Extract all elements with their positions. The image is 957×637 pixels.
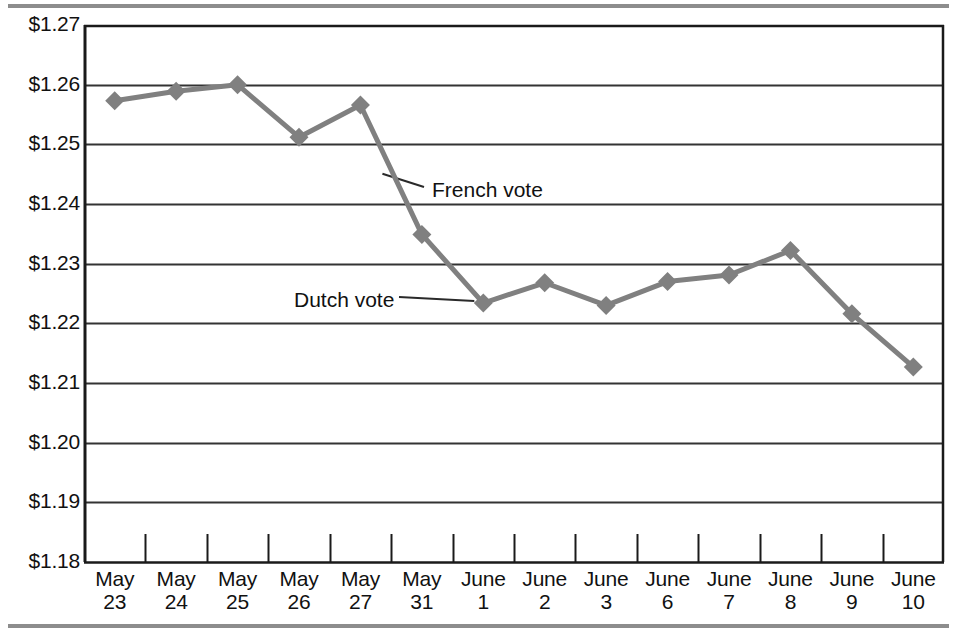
x-axis-tick-label: June10 (876, 568, 950, 613)
y-axis-tick-label: $1.22 (4, 310, 80, 334)
x-tick-marks-group (146, 534, 884, 562)
line-chart-plot (0, 0, 957, 637)
leader-line-dutch-vote (399, 297, 474, 301)
data-point-marker (658, 272, 677, 291)
annotation-french-vote: French vote (432, 178, 543, 202)
y-axis-tick-label: $1.27 (4, 12, 80, 36)
data-point-marker (720, 266, 739, 285)
chart-figure: $1.27$1.26$1.25$1.24$1.23$1.22$1.21$1.20… (0, 0, 957, 637)
series-line-euro-exchange-rate (115, 85, 914, 367)
y-axis-tick-label: $1.25 (4, 131, 80, 155)
y-axis-tick-label: $1.20 (4, 430, 80, 454)
y-axis-tick-label: $1.18 (4, 549, 80, 573)
y-axis-tick-label: $1.21 (4, 370, 80, 394)
x-tick-month: June (876, 568, 950, 591)
y-axis-tick-label: $1.26 (4, 72, 80, 96)
y-axis-tick-label: $1.23 (4, 251, 80, 275)
x-tick-day: 10 (876, 591, 950, 614)
y-axis-tick-label: $1.19 (4, 489, 80, 513)
data-point-marker (105, 91, 124, 110)
data-point-marker (535, 273, 554, 292)
data-line-group (115, 85, 914, 367)
data-point-marker (351, 95, 370, 114)
data-markers-group (105, 75, 923, 376)
y-axis-tick-label: $1.24 (4, 191, 80, 215)
data-point-marker (597, 296, 616, 315)
annotation-dutch-vote: Dutch vote (294, 288, 394, 312)
leader-line-french-vote (382, 174, 424, 187)
